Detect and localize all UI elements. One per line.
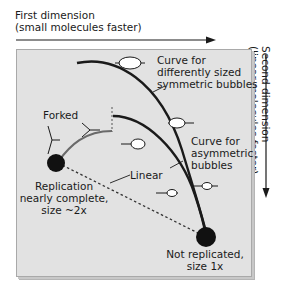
symmetric-curve-label-3: symmetric bubbles — [157, 78, 258, 90]
symmetric-curve-label-1: Curve for — [157, 54, 206, 66]
asymmetric-curve-label-2: asymmetric — [191, 147, 253, 159]
not-replicated-spot — [196, 227, 216, 247]
symmetric-curve-label-2: differently sized — [157, 66, 241, 78]
replication-complete-label-3: size ~2x — [14, 204, 114, 216]
forked-label: Forked — [43, 109, 78, 121]
forked-curve — [58, 131, 112, 162]
bubble-icon-asym-2 — [121, 139, 145, 149]
not-replicated-label-2: size 1x — [160, 260, 250, 272]
asymmetric-curve-label-1: Curve for — [191, 135, 240, 147]
replication-complete-spot — [47, 154, 65, 172]
fork-icon-lower — [48, 126, 60, 154]
first-dimension-arrow — [16, 37, 216, 44]
bubble-icon-small-1 — [156, 190, 178, 197]
second-dimension-arrow — [263, 55, 270, 198]
replication-complete-label-1: Replication — [14, 180, 114, 192]
bubble-icon-small-2 — [194, 183, 218, 190]
linear-label: Linear — [130, 169, 163, 181]
bubble-icon-asym-1 — [168, 118, 194, 128]
not-replicated-label-1: Not replicated, — [160, 248, 250, 260]
asymmetric-curve-label-3: bubbles — [191, 159, 233, 171]
diagram-graphics — [0, 0, 308, 284]
replication-complete-label-2: nearly complete, — [14, 192, 114, 204]
